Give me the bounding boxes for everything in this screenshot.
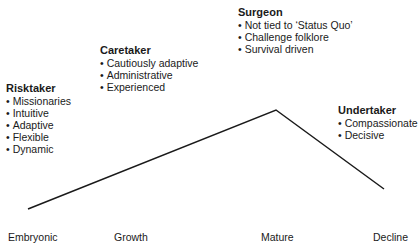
role-title: Caretaker	[100, 44, 198, 57]
caretaker-group: Caretaker Cautiously adaptive Administra…	[100, 44, 198, 93]
list-item: Flexible	[6, 131, 71, 143]
list-item: Missionaries	[6, 95, 71, 107]
list-item: Experienced	[100, 81, 198, 93]
list-item: Not tied to ‘Status Quo’	[238, 19, 353, 31]
stage-growth: Growth	[114, 231, 148, 243]
list-item: Dynamic	[6, 143, 71, 155]
role-title: Risktaker	[6, 82, 71, 95]
stage-decline: Decline	[373, 231, 408, 243]
stage-mature: Mature	[261, 231, 294, 243]
surgeon-group: Surgeon Not tied to ‘Status Quo’ Challen…	[238, 6, 353, 55]
list-item: Adaptive	[6, 119, 71, 131]
role-title: Undertaker	[338, 104, 418, 117]
stage-embryonic: Embryonic	[8, 231, 58, 243]
role-title: Surgeon	[238, 6, 353, 19]
list-item: Challenge folklore	[238, 31, 353, 43]
risktaker-group: Risktaker Missionaries Intuitive Adaptiv…	[6, 82, 71, 155]
lifecycle-line	[28, 110, 384, 209]
list-item: Survival driven	[238, 43, 353, 55]
list-item: Decisive	[338, 129, 418, 141]
undertaker-group: Undertaker Compassionate Decisive	[338, 104, 418, 141]
list-item: Administrative	[100, 69, 198, 81]
list-item: Cautiously adaptive	[100, 57, 198, 69]
list-item: Compassionate	[338, 117, 418, 129]
list-item: Intuitive	[6, 107, 71, 119]
